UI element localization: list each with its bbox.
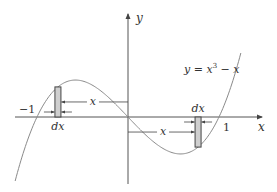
y-axis-label: y [135, 11, 143, 25]
right-distance-label: x [160, 125, 167, 138]
diagram-canvas: x dx x dx y x −1 1 y = x3 − x [0, 0, 277, 192]
equation-rhs: − x [217, 63, 240, 76]
x-axis-label: x [258, 120, 265, 134]
right-dx-label: dx [191, 102, 205, 115]
left-strip: x dx [44, 87, 128, 133]
tick-label-one: 1 [223, 121, 230, 134]
right-strip: x dx [128, 102, 212, 147]
left-distance-label: x [90, 95, 97, 108]
tick-label-neg-one: −1 [19, 103, 35, 116]
equation-lhs: y = x [183, 63, 213, 76]
left-strip-rect [55, 87, 61, 117]
right-strip-rect [195, 117, 201, 147]
left-dx-label: dx [51, 120, 65, 133]
cubic-shell-diagram: x dx x dx y x −1 1 y = x3 − x [0, 0, 277, 192]
equation-label: y = x3 − x [183, 62, 240, 76]
